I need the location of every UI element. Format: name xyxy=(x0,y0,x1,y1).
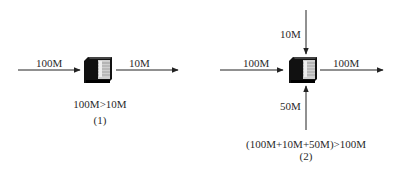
diagram-1-number: (1) xyxy=(94,114,107,126)
input-top-label: 10M xyxy=(280,28,301,40)
network-switch-icon xyxy=(84,57,112,83)
output-label: 100M xyxy=(333,57,359,69)
input-left-label: 100M xyxy=(243,57,269,69)
network-switch-icon xyxy=(289,57,317,83)
diagram-2-number: (2) xyxy=(300,150,313,162)
diagram-1-caption: 100M>10M xyxy=(73,98,126,110)
diagram-2 xyxy=(220,10,383,130)
diagram-2-caption: (100M+10M+50M)>100M xyxy=(246,138,366,150)
output-label: 10M xyxy=(129,57,150,69)
input-bottom-label: 50M xyxy=(280,100,301,112)
input-label: 100M xyxy=(36,57,62,69)
